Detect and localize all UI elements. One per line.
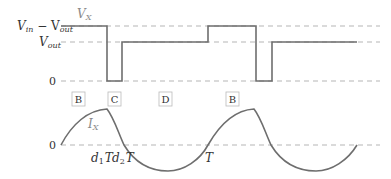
svg-text:B: B [229,94,236,105]
svg-text:B: B [75,94,82,105]
phase-box-c: C [108,92,121,106]
vout-label: Vout [39,35,62,50]
d1t-time-marker: d1T [91,151,114,166]
zero-current-label: 0 [49,139,56,152]
waveform-svg: Vin − Vout Vout 0 VX B C D B IX 0 d1T d2… [0,0,391,179]
phase-box-b1: B [72,92,85,106]
phase-box-b2: B [226,92,239,106]
d2t-time-marker: d2T [112,151,135,166]
vx-voltage-waveform [61,26,357,81]
buck-converter-waveform-diagram: Vin − Vout Vout 0 VX B C D B IX 0 d1T d2… [0,0,391,179]
period-t-marker: T [205,151,214,165]
ix-signal-label: IX [87,117,99,132]
svg-text:D: D [161,94,169,105]
svg-text:C: C [111,94,119,105]
phase-box-d: D [159,92,172,106]
vin-minus-vout-label: Vin − Vout [17,19,74,34]
zero-voltage-label: 0 [49,75,56,88]
vx-signal-label: VX [77,7,92,22]
